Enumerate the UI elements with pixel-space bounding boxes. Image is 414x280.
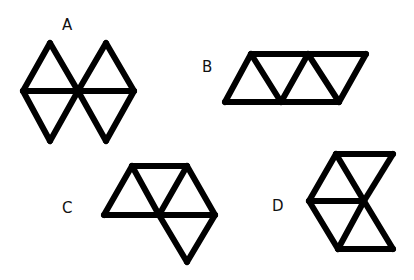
edge-line: [308, 54, 339, 102]
figure-d: [309, 154, 393, 249]
figure-label-d: D: [272, 199, 284, 214]
edge-line: [50, 91, 78, 141]
edge-line: [338, 201, 364, 249]
figures-canvas: [0, 0, 414, 280]
edge-line: [104, 166, 132, 215]
edge-line: [336, 154, 364, 201]
edge-line: [106, 91, 134, 141]
edge-line: [23, 43, 50, 91]
edge-line: [339, 54, 366, 102]
figure-c: [104, 166, 215, 262]
figure-label-c: C: [62, 201, 72, 216]
edge-line: [23, 91, 50, 141]
edge-line: [364, 201, 393, 249]
figure-label-a: A: [62, 18, 72, 33]
figure-label-b: B: [202, 60, 212, 75]
edge-line: [78, 91, 106, 141]
edge-line: [78, 43, 106, 91]
edge-line: [50, 43, 78, 91]
edge-line: [187, 215, 215, 262]
edge-line: [159, 215, 187, 262]
figure-b: [225, 54, 366, 102]
edge-line: [106, 43, 134, 91]
edge-line: [251, 54, 281, 102]
edge-line: [159, 166, 187, 215]
edge-line: [309, 201, 338, 249]
edge-line: [225, 54, 251, 102]
edge-line: [364, 154, 393, 201]
edge-line: [187, 166, 215, 215]
edge-line: [309, 154, 336, 201]
edge-line: [132, 166, 159, 215]
edge-line: [281, 54, 308, 102]
figure-a: [23, 43, 134, 141]
